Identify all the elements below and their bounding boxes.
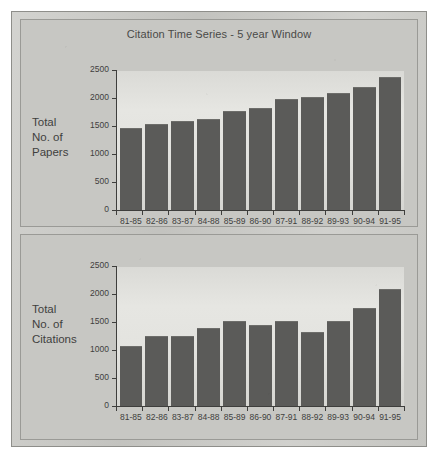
bar-slot — [222, 71, 248, 211]
bar-slot — [299, 267, 325, 407]
chart-title: Citation Time Series - 5 year Window — [20, 28, 418, 40]
x-tick-label: 89-93 — [325, 216, 351, 226]
figure-frame: Citation Time Series - 5 year Window Tot… — [11, 11, 427, 447]
y-tick: 2500 — [112, 70, 116, 71]
x-tick — [221, 211, 222, 215]
x-tick-label: 85-89 — [222, 412, 248, 422]
bar-group-papers — [116, 71, 404, 211]
x-tick-label: 90-94 — [351, 216, 377, 226]
bar — [301, 97, 324, 211]
x-tick-label: 86-90 — [248, 216, 274, 226]
bar-slot — [118, 267, 144, 407]
x-tick-label: 88-92 — [299, 216, 325, 226]
x-tick — [273, 211, 274, 215]
x-tick — [378, 211, 379, 215]
bar — [171, 336, 194, 407]
x-tick — [273, 407, 274, 411]
row-label-line: Total — [32, 115, 68, 130]
bar-slot — [144, 71, 170, 211]
y-tick: 1000 — [112, 154, 116, 155]
x-tick-label: 82-86 — [144, 412, 170, 422]
x-tick-label: 83-87 — [170, 412, 196, 422]
x-tick — [352, 407, 353, 411]
x-tick — [142, 211, 143, 215]
x-tick — [352, 211, 353, 215]
x-tick — [325, 211, 326, 215]
y-tick-label: 2500 — [90, 64, 109, 74]
x-tick-label: 91-95 — [377, 216, 403, 226]
bar — [145, 124, 168, 211]
row-label-line: Citations — [32, 332, 77, 347]
x-tick-label: 84-88 — [196, 412, 222, 422]
plot-area-citations: 05001000150020002500 81-8582-8683-8784-8… — [116, 267, 404, 407]
bar-slot — [351, 267, 377, 407]
bar-slot — [248, 267, 274, 407]
x-tick — [195, 211, 196, 215]
bar-slot — [248, 71, 274, 211]
x-tick — [116, 211, 117, 215]
bar-slot — [299, 71, 325, 211]
x-axis-ticks — [116, 407, 404, 411]
x-tick — [168, 211, 169, 215]
bar-slot — [196, 267, 222, 407]
x-tick — [116, 407, 117, 411]
bar-slot — [325, 267, 351, 407]
bar — [197, 328, 220, 407]
bar-slot — [170, 267, 196, 407]
bar — [327, 93, 350, 211]
bar — [249, 108, 272, 211]
bar — [145, 336, 168, 407]
bar — [249, 325, 272, 407]
x-tick-label: 84-88 — [196, 216, 222, 226]
y-axis-line — [116, 70, 117, 212]
y-tick-label: 0 — [104, 400, 109, 410]
y-tick: 500 — [112, 378, 116, 379]
bar-slot — [325, 71, 351, 211]
row-label-line: Total — [32, 302, 77, 317]
x-tick-label: 87-91 — [273, 412, 299, 422]
y-tick: 1500 — [112, 322, 116, 323]
y-tick: 1500 — [112, 126, 116, 127]
x-tick-label: 82-86 — [144, 216, 170, 226]
bar — [171, 121, 194, 211]
x-tick-label: 81-85 — [118, 412, 144, 422]
x-tick — [325, 407, 326, 411]
bar-slot — [144, 267, 170, 407]
bar — [301, 332, 324, 407]
bar — [353, 87, 376, 211]
bar — [223, 111, 246, 211]
x-tick — [168, 407, 169, 411]
chart-panel-citations: Total No. of Citations 05001000150020002… — [20, 234, 418, 440]
row-label-papers: Total No. of Papers — [32, 115, 68, 160]
y-tick-label: 1000 — [90, 344, 109, 354]
bar — [120, 128, 143, 211]
bar-group-citations — [116, 267, 404, 407]
x-axis-ticks — [116, 211, 404, 215]
x-tick — [299, 407, 300, 411]
x-tick-label: 88-92 — [299, 412, 325, 422]
bar — [379, 289, 402, 407]
x-tick-label: 89-93 — [325, 412, 351, 422]
bar — [223, 321, 246, 407]
y-tick: 500 — [112, 182, 116, 183]
y-tick-label: 2000 — [90, 288, 109, 298]
x-tick — [247, 211, 248, 215]
x-tick — [195, 407, 196, 411]
bar-slot — [273, 71, 299, 211]
y-tick-label: 500 — [95, 176, 109, 186]
bar-slot — [196, 71, 222, 211]
y-tick-label: 2000 — [90, 92, 109, 102]
y-tick-label: 0 — [104, 204, 109, 214]
row-label-line: Papers — [32, 145, 68, 160]
x-tick — [247, 407, 248, 411]
y-tick-label: 1500 — [90, 120, 109, 130]
row-label-line: No. of — [32, 130, 68, 145]
row-label-line: No. of — [32, 317, 77, 332]
x-tick — [378, 407, 379, 411]
x-tick — [404, 407, 405, 411]
x-tick — [221, 407, 222, 411]
x-tick — [404, 211, 405, 215]
x-tick-label: 83-87 — [170, 216, 196, 226]
x-tick-label: 86-90 — [248, 412, 274, 422]
row-label-citations: Total No. of Citations — [32, 302, 77, 347]
